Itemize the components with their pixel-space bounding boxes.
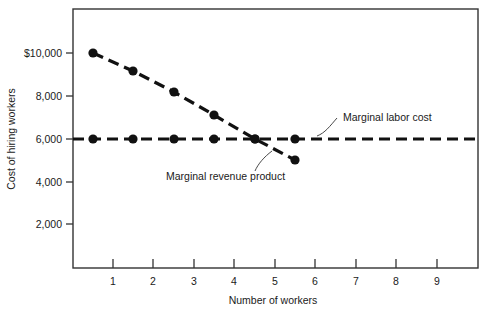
mrp-point-3: [209, 110, 218, 119]
mrp-point-0: [88, 48, 97, 57]
x-tick-label-2: 2: [150, 275, 156, 287]
marginal-labor-cost-leader: [317, 118, 337, 136]
x-tick-label-1: 1: [110, 275, 116, 287]
x-tick-label-9: 9: [434, 275, 440, 287]
x-tick-label-6: 6: [312, 275, 318, 287]
series-marginal-labor-cost: [73, 134, 478, 143]
x-tick-label-7: 7: [353, 275, 359, 287]
mlc-point-0: [88, 134, 97, 143]
mrp-point-2: [169, 87, 178, 96]
mlc-point-1: [128, 134, 137, 143]
marginal-cost-chart: $10,000 8,000 6,000 4,000 2,000 1 2 3 4 …: [0, 0, 492, 323]
marginal-revenue-product-leader: [255, 151, 272, 171]
y-tick-label-6000: 6,000: [36, 133, 62, 145]
marginal-revenue-product-label: Marginal revenue product: [166, 170, 285, 182]
mrp-point-1: [128, 66, 137, 75]
y-axis-tick-labels: $10,000 8,000 6,000 4,000 2,000: [24, 47, 62, 230]
y-tick-label-2000: 2,000: [36, 218, 62, 230]
annotation-marginal-labor-cost: Marginal labor cost: [317, 111, 432, 136]
mlc-point-2: [169, 134, 178, 143]
marginal-labor-cost-label: Marginal labor cost: [343, 111, 432, 123]
y-axis-title: Cost of hiring workers: [5, 88, 17, 190]
annotation-marginal-revenue-product: Marginal revenue product: [166, 151, 285, 182]
x-tick-label-3: 3: [191, 275, 197, 287]
mrp-point-5: [290, 155, 299, 164]
y-tick-label-4000: 4,000: [36, 176, 62, 188]
y-tick-label-10000: $10,000: [24, 47, 62, 59]
x-tick-label-5: 5: [272, 275, 278, 287]
x-axis-tick-labels: 1 2 3 4 5 6 7 8 9: [110, 275, 440, 287]
x-axis-ticks: [113, 259, 437, 268]
x-axis-title: Number of workers: [229, 294, 318, 306]
mrp-point-4: [250, 134, 259, 143]
mlc-point-5: [290, 134, 299, 143]
x-tick-label-4: 4: [231, 275, 237, 287]
x-tick-label-8: 8: [393, 275, 399, 287]
y-axis-ticks: [66, 53, 73, 224]
chart-page: $10,000 8,000 6,000 4,000 2,000 1 2 3 4 …: [0, 0, 492, 323]
mlc-point-3: [209, 134, 218, 143]
series-marginal-revenue-product: [88, 48, 299, 164]
marginal-revenue-product-line: [93, 53, 295, 160]
y-tick-label-8000: 8,000: [36, 90, 62, 102]
